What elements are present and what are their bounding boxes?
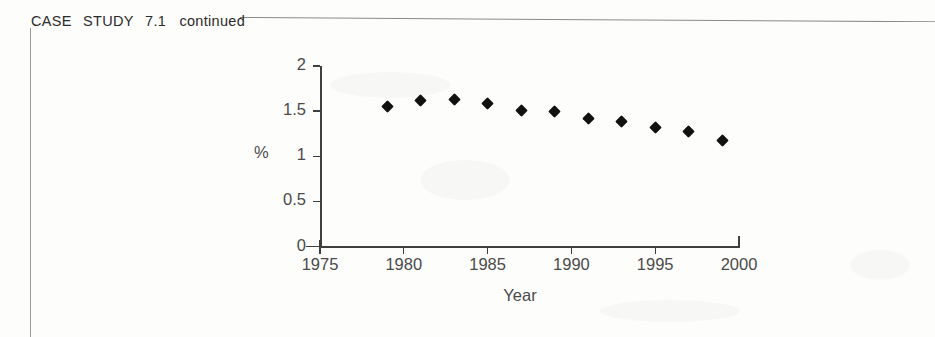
y-axis-tick: [306, 246, 320, 247]
data-point-marker: [481, 97, 494, 110]
y-axis-tick-label: 0: [297, 236, 306, 255]
y-axis-tick: [313, 110, 320, 111]
data-point-marker: [716, 134, 729, 147]
x-axis-tick-label: 1990: [541, 255, 601, 274]
data-point-marker: [414, 94, 427, 107]
scatter-plot: % Year 00.511.52197519801985199019952000: [0, 0, 935, 337]
x-axis-line: [320, 246, 740, 248]
x-axis-tick: [319, 240, 320, 254]
x-axis-tick: [571, 247, 572, 254]
data-point-marker: [548, 105, 561, 118]
x-axis-tick-label: 2000: [709, 255, 769, 274]
data-point-marker: [682, 126, 695, 139]
y-axis-tick-label: 1.5: [283, 100, 306, 119]
x-axis-tick-label: 1985: [458, 255, 518, 274]
x-axis-tick: [655, 247, 656, 254]
x-axis-tick-label: 1995: [625, 255, 685, 274]
y-axis-title: %: [254, 143, 269, 162]
y-axis-tick: [313, 201, 320, 202]
y-axis-tick-label: 1: [297, 145, 306, 164]
x-axis-tick: [403, 247, 404, 254]
y-axis-tick-label: 2: [297, 55, 306, 74]
data-point-marker: [649, 121, 662, 134]
x-axis-tick: [738, 236, 739, 247]
data-point-marker: [381, 100, 394, 113]
data-point-marker: [615, 115, 628, 128]
y-axis-tick: [313, 156, 320, 157]
x-axis-title: Year: [460, 286, 580, 305]
data-point-marker: [515, 104, 528, 117]
y-axis-tick-label: 0.5: [283, 190, 306, 209]
x-axis-tick-label: 1980: [374, 255, 434, 274]
scanned-page: CASE STUDY 7.1 continued % Year 00.511.5…: [0, 0, 935, 337]
data-point-marker: [448, 93, 461, 106]
x-axis-tick-label: 1975: [290, 255, 350, 274]
y-axis-tick: [313, 65, 320, 66]
x-axis-tick: [487, 247, 488, 254]
data-point-marker: [582, 112, 595, 125]
y-axis-line: [320, 66, 322, 247]
